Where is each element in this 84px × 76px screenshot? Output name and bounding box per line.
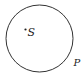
label-s: S <box>28 26 36 39</box>
center-dot <box>24 28 26 30</box>
circle <box>6 5 73 72</box>
diagram-canvas: S P <box>0 0 84 76</box>
label-p: P <box>73 57 81 68</box>
